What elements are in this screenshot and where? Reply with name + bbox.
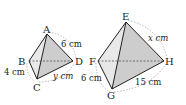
vertex-label-a: A (42, 24, 51, 35)
edge-label-cd: y cm (52, 71, 73, 81)
vertex-label-b: B (18, 56, 25, 67)
edge-label-eh: x cm (148, 33, 168, 43)
vertex-label-h: H (165, 56, 174, 67)
edge-label-ad: 6 cm (61, 39, 82, 49)
vertex-label-g: G (107, 90, 115, 101)
edge-label-fg: 6 cm (81, 73, 102, 83)
tetrahedron-abcd: A B C D 6 cm 4 cm y cm (4, 24, 83, 93)
vertex-label-e: E (122, 11, 129, 22)
vertex-label-f: F (89, 56, 96, 67)
tetrahedron-efgh: E F G H x cm 6 cm 15 cm (81, 11, 174, 101)
vertex-label-c: C (33, 82, 41, 93)
similar-tetrahedra-diagram: A B C D 6 cm 4 cm y cm E F G H x cm 6 cm… (0, 0, 186, 105)
edge-label-gh: 15 cm (135, 77, 161, 87)
vertex-label-d: D (75, 56, 83, 67)
edge-label-bc: 4 cm (4, 67, 25, 77)
